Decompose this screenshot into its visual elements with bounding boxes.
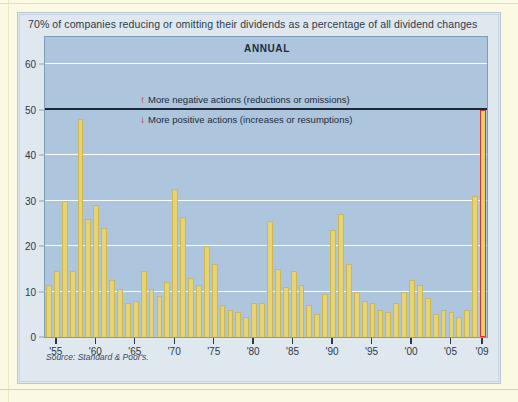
- x-axis-label-95: '95: [365, 346, 378, 357]
- bar-1988: [314, 314, 320, 337]
- y-axis-label-10: 10: [25, 286, 36, 297]
- bar-1990: [330, 230, 336, 337]
- y-axis-label-40: 40: [25, 150, 36, 161]
- bar-1980: [251, 303, 257, 337]
- x-axis-tick-65: [134, 338, 135, 344]
- x-axis-tick-55: [55, 338, 56, 344]
- y-axis-tick-50: [39, 109, 44, 110]
- bar-2008: [472, 196, 478, 337]
- annotation-more-negative: ↑More negative actions (reductions or om…: [140, 94, 350, 105]
- y-axis-tick-20: [39, 246, 44, 247]
- bar-1967: [149, 289, 155, 337]
- bar-1964: [125, 303, 131, 337]
- bar-1974: [204, 246, 210, 337]
- bar-1969: [164, 282, 170, 337]
- x-axis-label-00: '00: [404, 346, 417, 357]
- bar-1975: [212, 264, 218, 337]
- x-axis-tick-80: [252, 338, 253, 344]
- bar-1955: [54, 271, 60, 337]
- decorative-rule-top: [0, 3, 518, 4]
- x-axis-label-09: '09: [476, 346, 489, 357]
- down-arrow-icon: ↓: [140, 114, 145, 125]
- bar-1960: [93, 205, 99, 337]
- bar-1994: [362, 301, 368, 337]
- bar-2001: [417, 285, 423, 337]
- y-axis-label-20: 20: [25, 241, 36, 252]
- x-axis-label-80: '80: [247, 346, 260, 357]
- bar-1979: [243, 317, 249, 337]
- bar-1965: [133, 301, 139, 337]
- bar-2002: [425, 298, 431, 337]
- x-axis-label-75: '75: [207, 346, 220, 357]
- bar-2006: [456, 317, 462, 337]
- bar-1984: [283, 287, 289, 337]
- x-axis-label-70: '70: [168, 346, 181, 357]
- bar-1999: [401, 292, 407, 337]
- y-axis-tick-60: [39, 64, 44, 65]
- bar-1981: [259, 303, 265, 337]
- x-axis-label-90: '90: [326, 346, 339, 357]
- bar-1957: [70, 271, 76, 337]
- bar-1968: [157, 296, 163, 337]
- bar-1997: [385, 312, 391, 337]
- x-axis-tick-09: [481, 338, 482, 344]
- bar-2007: [464, 310, 470, 337]
- bar-1995: [370, 303, 376, 337]
- bar-highlight-2009: [480, 110, 486, 337]
- bar-series: [45, 37, 487, 337]
- bar-1959: [85, 219, 91, 337]
- bar-2003: [433, 314, 439, 337]
- annotation-more-negative-label: More negative actions (reductions or omi…: [148, 94, 350, 105]
- bar-1971: [180, 217, 186, 337]
- bar-1991: [338, 214, 344, 337]
- bar-1970: [172, 189, 178, 337]
- bar-1973: [196, 285, 202, 337]
- x-axis-tick-70: [174, 338, 175, 344]
- bar-1962: [109, 280, 115, 337]
- chart-subtitle: 70% of companies reducing or omitting th…: [28, 18, 494, 30]
- bar-1986: [299, 285, 305, 337]
- bar-1972: [188, 278, 194, 337]
- bar-1996: [378, 310, 384, 337]
- y-axis-label-30: 30: [25, 195, 36, 206]
- x-axis-tick-85: [292, 338, 293, 344]
- bar-1961: [101, 228, 107, 337]
- bar-1982: [267, 221, 273, 337]
- plot-area: [45, 37, 487, 337]
- y-axis-tick-10: [39, 291, 44, 292]
- x-axis-tick-60: [95, 338, 96, 344]
- bar-1983: [275, 269, 281, 337]
- bar-1958: [78, 119, 84, 337]
- x-axis-label-05: '05: [444, 346, 457, 357]
- chart-screenshot: 70% of companies reducing or omitting th…: [0, 0, 518, 402]
- bar-1976: [220, 305, 226, 337]
- up-arrow-icon: ↑: [140, 94, 145, 105]
- bar-2005: [449, 312, 455, 337]
- x-axis-label-85: '85: [286, 346, 299, 357]
- bar-1987: [306, 305, 312, 337]
- bar-1963: [117, 289, 123, 337]
- decorative-rule-bottom: [0, 389, 518, 390]
- bar-1956: [62, 201, 68, 337]
- bar-1977: [228, 310, 234, 337]
- bar-1989: [322, 294, 328, 337]
- source-note: Source: Standard & Poor's.: [46, 352, 149, 362]
- bar-1954: [46, 285, 52, 337]
- x-axis-tick-75: [213, 338, 214, 344]
- annotation-more-positive-label: More positive actions (increases or resu…: [148, 114, 352, 125]
- bar-1978: [235, 312, 241, 337]
- y-axis-label-60: 60: [25, 59, 36, 70]
- x-axis-tick-05: [450, 338, 451, 344]
- bar-1985: [291, 271, 297, 337]
- x-axis-tick-90: [331, 338, 332, 344]
- annotation-more-positive: ↓More positive actions (increases or res…: [140, 114, 352, 125]
- x-axis-tick-00: [410, 338, 411, 344]
- y-axis-label-0: 0: [30, 332, 36, 343]
- bar-1992: [346, 264, 352, 337]
- y-axis: 0102030405060: [0, 36, 44, 338]
- y-axis-tick-40: [39, 155, 44, 156]
- bar-2000: [409, 280, 415, 337]
- y-axis-tick-30: [39, 200, 44, 201]
- bar-1998: [393, 303, 399, 337]
- bar-2004: [441, 310, 447, 337]
